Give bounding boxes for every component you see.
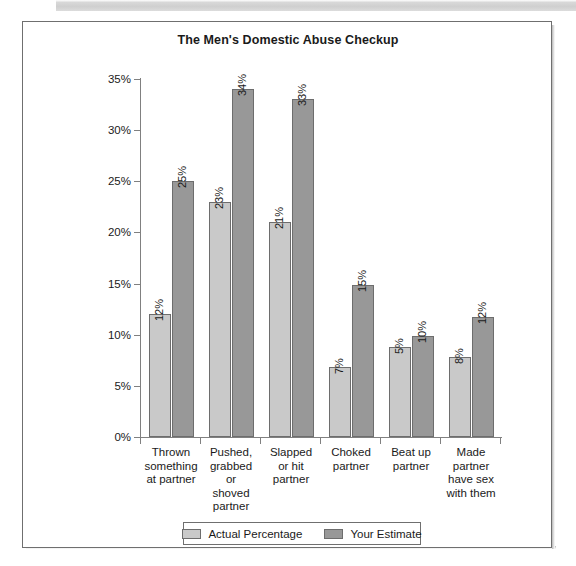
bar: [412, 336, 434, 437]
bar: [389, 347, 411, 437]
y-axis-tick-label: 15%: [87, 278, 131, 290]
x-axis-tick: [260, 438, 261, 444]
bar: [209, 202, 231, 437]
bar-value-label: 12%: [476, 302, 488, 324]
x-axis-category-label: Madepartnerhave sexwith them: [435, 446, 507, 500]
bar: [232, 89, 254, 437]
category-label-line: partner: [195, 500, 267, 514]
y-axis-tick: [134, 386, 140, 387]
bar-value-label: 12%: [153, 299, 165, 321]
y-axis-tick-label: 20%: [87, 226, 131, 238]
bar-value-label: 21%: [273, 207, 285, 229]
y-axis-tick-label: 10%: [87, 329, 131, 341]
scan-artifact-band-gap: [0, 0, 56, 11]
bar: [449, 357, 471, 437]
bar: [329, 367, 351, 437]
category-label-line: partner: [255, 473, 327, 487]
category-label-line: Made: [435, 446, 507, 460]
y-axis-tick: [134, 335, 140, 336]
scan-artifact-band: [0, 0, 576, 11]
bar: [269, 222, 291, 437]
bar: [352, 285, 374, 437]
legend-entry[interactable]: Actual Percentage: [182, 528, 302, 540]
legend-entry[interactable]: Your Estimate: [324, 528, 421, 540]
bar-value-label: 7%: [333, 359, 345, 375]
y-axis-tick: [134, 181, 140, 182]
x-axis-tick: [440, 438, 441, 444]
x-axis-tick: [380, 438, 381, 444]
y-axis-line: [140, 78, 141, 438]
y-axis-tick: [134, 284, 140, 285]
bar-value-label: 25%: [176, 166, 188, 188]
legend-label: Your Estimate: [350, 528, 421, 540]
x-axis-line: [140, 437, 502, 438]
y-axis-tick: [134, 232, 140, 233]
y-axis-tick: [134, 79, 140, 80]
category-label-line: with them: [435, 487, 507, 501]
x-axis-tick: [500, 438, 501, 444]
y-axis-tick-label: 30%: [87, 124, 131, 136]
bar: [172, 181, 194, 437]
bar-value-label: 5%: [393, 338, 405, 354]
category-label-line: partner: [435, 460, 507, 474]
category-label-line: have sex: [435, 473, 507, 487]
bar-value-label: 33%: [296, 84, 308, 106]
x-axis-tick: [140, 438, 141, 444]
bar-value-label: 34%: [236, 74, 248, 96]
chart-card: The Men's Domestic Abuse Checkup 0%5%10%…: [22, 21, 552, 548]
x-axis-tick: [200, 438, 201, 444]
chart-legend: Actual PercentageYour Estimate: [183, 522, 421, 545]
bar: [292, 99, 314, 437]
y-axis-tick-label: 0%: [87, 431, 131, 443]
bar: [149, 314, 171, 437]
bar: [472, 317, 494, 437]
chart-plot: 0%5%10%15%20%25%30%35% 12%25%23%34%21%33…: [23, 22, 553, 549]
x-axis-tick: [320, 438, 321, 444]
y-axis-tick-label: 35%: [87, 73, 131, 85]
legend-label: Actual Percentage: [208, 528, 302, 540]
category-label-line: shoved: [195, 487, 267, 501]
legend-swatch: [182, 529, 201, 539]
bar-value-label: 23%: [213, 187, 225, 209]
bar-value-label: 10%: [416, 321, 428, 343]
bar-value-label: 8%: [453, 348, 465, 364]
bar-value-label: 15%: [356, 270, 368, 292]
legend-swatch: [324, 529, 343, 539]
y-axis-tick-label: 5%: [87, 380, 131, 392]
y-axis-tick: [134, 130, 140, 131]
y-axis-tick-label: 25%: [87, 175, 131, 187]
